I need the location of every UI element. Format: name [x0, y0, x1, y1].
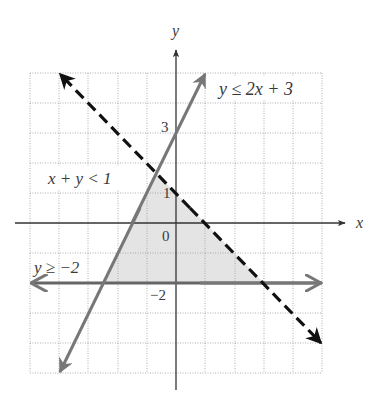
x-axis-label: x	[355, 214, 363, 231]
svg-text:x + y < 1: x + y < 1	[47, 169, 112, 188]
tick-label-1: 1	[163, 185, 171, 201]
tick-label-0: 0	[162, 228, 170, 244]
label-ineq3: y ≥ −2	[32, 258, 80, 277]
svg-text:y ≤ 2x + 3: y ≤ 2x + 3	[217, 79, 293, 99]
boundary-y-2x-plus-3-lower	[60, 208, 140, 372]
label-ineq2: x + y < 1	[46, 166, 130, 190]
tick-label-neg2: −2	[150, 287, 166, 303]
svg-text:y ≥ −2: y ≥ −2	[32, 258, 80, 277]
tick-label-3: 3	[161, 119, 169, 135]
label-ineq1: y ≤ 2x + 3	[216, 76, 320, 100]
y-axis-label: y	[170, 22, 180, 40]
inequality-graph: y x 3 1 0 −2 y ≤ 2x + 3 x + y < 1 y ≥ −2	[0, 0, 381, 406]
